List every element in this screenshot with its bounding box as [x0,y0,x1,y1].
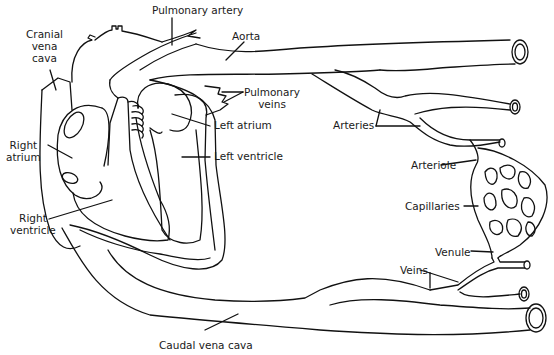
label-right-atrium: Right atrium [6,139,41,163]
label-aorta: Aorta [232,30,260,42]
label-venule: Venule [435,246,471,258]
label-line: cava [26,52,63,64]
label-line: veins [244,98,300,110]
label-line: Right [10,212,56,224]
valve-coil [132,106,143,138]
veins [430,258,530,301]
label-line: Pulmonary [244,86,300,98]
label-caudal-vena-cava: Caudal vena cava [159,339,253,351]
label-line: atrium [6,151,41,163]
heart [40,26,510,269]
label-left-atrium: Left atrium [214,119,272,131]
label-line: Right [6,139,41,151]
diagram-artwork [0,0,554,355]
label-pulmonary-veins: Pulmonary veins [244,86,300,110]
label-line: Cranial [26,28,63,40]
label-cranial-vena-cava: Cranial vena cava [26,28,63,64]
label-line: vena [26,40,63,52]
label-arteriole: Arteriole [411,159,456,171]
label-capillaries: Capillaries [405,200,460,212]
label-right-ventricle: Right ventricle [10,212,56,236]
label-left-ventricle: Left ventricle [214,150,283,162]
leader-lines [48,18,493,330]
arteries [312,70,520,147]
label-line: ventricle [10,224,56,236]
label-veins: Veins [400,264,428,276]
aorta-vessel [380,40,528,71]
capillary-bed [470,140,547,258]
label-pulmonary-artery: Pulmonary artery [152,4,243,16]
circulatory-diagram: Pulmonary artery Cranial vena cava Aorta… [0,0,554,355]
caudal-vena-cava [62,228,546,335]
label-arteries: Arteries [333,119,374,131]
